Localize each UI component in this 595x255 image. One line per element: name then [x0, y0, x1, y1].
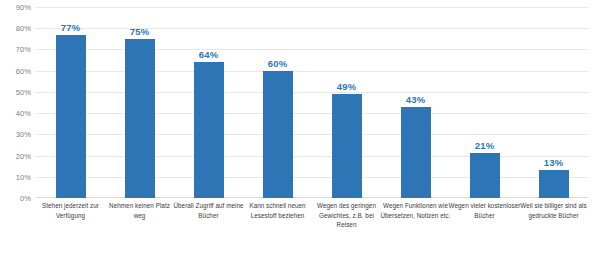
category-label: Überall Zugriff auf meine Bücher	[172, 201, 245, 220]
bar[interactable]	[470, 153, 500, 198]
bar[interactable]	[263, 71, 293, 198]
bar[interactable]	[401, 107, 431, 198]
bar-chart: 90% 80% 70% 60% 50% 40% 30% 20% 10% 0% 7…	[0, 0, 595, 255]
category-label: Weil sie billiger sind als gedruckte Büc…	[517, 201, 590, 220]
bar-value-label: 43%	[406, 94, 426, 105]
category-label: Nehmen keinen Platz weg	[103, 201, 176, 220]
bar-value-label: 13%	[544, 157, 564, 168]
bar-slot: 13%	[519, 7, 588, 198]
y-tick-label: 20%	[16, 151, 31, 160]
y-tick-label: 90%	[16, 3, 31, 12]
bar[interactable]	[125, 39, 155, 198]
bar-slot: 21%	[450, 7, 519, 198]
y-axis: 90% 80% 70% 60% 50% 40% 30% 20% 10% 0%	[0, 0, 34, 255]
bar-slot: 77%	[36, 7, 105, 198]
bars-layer: 77% 75% 64% 60% 49% 43% 21% 13%	[36, 7, 588, 198]
category-label: Stehen jederzeit zur Verfügung	[34, 201, 107, 220]
bar-slot: 64%	[174, 7, 243, 198]
bar-value-label: 77%	[61, 22, 81, 33]
bar-slot: 75%	[105, 7, 174, 198]
bar[interactable]	[194, 62, 224, 198]
y-tick-label: 80%	[16, 24, 31, 33]
category-label: Wegen Funktionen wie Übersetzen, Notizen…	[379, 201, 452, 220]
y-tick-label: 40%	[16, 109, 31, 118]
y-tick-label: 70%	[16, 45, 31, 54]
bar[interactable]	[539, 170, 569, 198]
bar-slot: 49%	[312, 7, 381, 198]
y-tick-label: 30%	[16, 130, 31, 139]
category-label: Wegen des geringen Gewichtes, z.B. bei R…	[310, 201, 383, 230]
bar-slot: 60%	[243, 7, 312, 198]
bar[interactable]	[332, 94, 362, 198]
bar-value-label: 21%	[475, 140, 495, 151]
category-label: Wegen vieler kostenloser Bücher	[448, 201, 521, 220]
bar[interactable]	[56, 35, 86, 198]
bar-value-label: 64%	[199, 49, 219, 60]
bar-value-label: 49%	[337, 81, 357, 92]
y-tick-label: 0%	[20, 194, 31, 203]
y-tick-label: 50%	[16, 87, 31, 96]
bar-slot: 43%	[381, 7, 450, 198]
y-tick-label: 10%	[16, 172, 31, 181]
y-tick-label: 60%	[16, 66, 31, 75]
bar-value-label: 75%	[130, 26, 150, 37]
x-axis-labels: Stehen jederzeit zur Verfügung Nehmen ke…	[36, 201, 588, 255]
bar-value-label: 60%	[268, 58, 288, 69]
category-label: Kann schnell neuen Lesestoff beziehen	[241, 201, 314, 220]
